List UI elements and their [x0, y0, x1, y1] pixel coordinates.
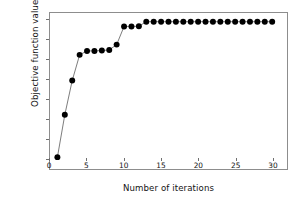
y-tick-mark: [46, 99, 49, 100]
series-markers: [54, 19, 275, 160]
data-point: [62, 112, 68, 118]
x-tick-label: 30: [258, 161, 288, 170]
x-tick-label: 10: [109, 161, 139, 170]
x-axis-label: Number of iterations: [49, 183, 288, 193]
x-tick-mark: [49, 158, 50, 161]
x-tick-label: 25: [221, 161, 251, 170]
x-tick-label: 0: [34, 161, 64, 170]
y-tick-mark: [46, 139, 49, 140]
data-point: [269, 19, 275, 25]
chart-figure: Objective function values Number of iter…: [0, 0, 301, 205]
plot-svg: [50, 13, 287, 169]
data-point: [106, 47, 112, 53]
y-axis-label: Objective function values: [30, 0, 40, 131]
data-point: [180, 19, 186, 25]
y-tick-mark: [46, 19, 49, 20]
data-point: [225, 19, 231, 25]
data-point: [210, 19, 216, 25]
data-point: [254, 19, 260, 25]
data-point: [232, 19, 238, 25]
x-tick-mark: [86, 158, 87, 161]
data-point: [77, 52, 83, 58]
x-tick-label: 5: [71, 161, 101, 170]
y-tick-mark: [46, 59, 49, 60]
data-point: [151, 19, 157, 25]
data-point: [99, 48, 105, 54]
data-point: [217, 19, 223, 25]
data-point: [173, 19, 179, 25]
x-tick-label: 20: [183, 161, 213, 170]
x-tick-mark: [124, 158, 125, 161]
y-tick-mark: [46, 39, 49, 40]
x-tick-mark: [161, 158, 162, 161]
series-line: [57, 22, 272, 157]
data-point: [158, 19, 164, 25]
x-tick-label: 15: [146, 161, 176, 170]
x-tick-mark: [273, 158, 274, 161]
y-tick-mark: [46, 79, 49, 80]
data-point: [91, 48, 97, 54]
data-point: [143, 19, 149, 25]
y-tick-mark: [46, 119, 49, 120]
data-point: [114, 42, 120, 48]
x-tick-mark: [198, 158, 199, 161]
data-point: [54, 154, 60, 160]
data-point: [121, 23, 127, 29]
data-point: [262, 19, 268, 25]
data-point: [240, 19, 246, 25]
data-point: [203, 19, 209, 25]
data-point: [195, 19, 201, 25]
data-point: [69, 78, 75, 84]
x-tick-mark: [236, 158, 237, 161]
data-point: [247, 19, 253, 25]
plot-area: [49, 12, 288, 170]
data-point: [136, 23, 142, 29]
data-point: [188, 19, 194, 25]
data-point: [166, 19, 172, 25]
data-point: [128, 23, 134, 29]
data-point: [84, 48, 90, 54]
